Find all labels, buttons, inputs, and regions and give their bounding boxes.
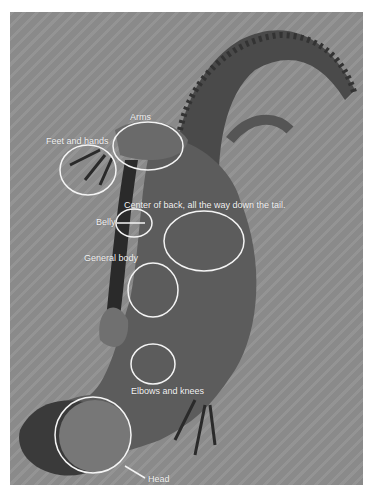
label-head: Head: [148, 474, 170, 484]
label-center-of-back: Center of back, all the way down the tai…: [124, 200, 286, 210]
lizard-photo: Arms Feet and hands Center of back, all …: [10, 12, 363, 485]
label-arms: Arms: [130, 112, 151, 122]
label-general-body: General body: [84, 253, 138, 263]
label-elbows-and-knees: Elbows and knees: [131, 386, 204, 396]
label-feet-and-hands: Feet and hands: [46, 136, 109, 146]
label-belly: Belly: [96, 217, 116, 227]
lizard-illustration: [10, 12, 363, 485]
